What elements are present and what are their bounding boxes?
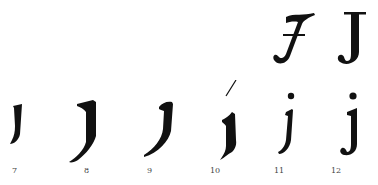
- glyph-7: [8, 104, 24, 146]
- glyph-8: [66, 100, 102, 164]
- glyph-9: [140, 101, 176, 161]
- label-7: 7: [12, 166, 17, 175]
- glyph-capital-j-script: [270, 10, 320, 66]
- glyph-10: [214, 80, 244, 162]
- label-10: 10: [210, 166, 220, 175]
- label-9: 9: [147, 166, 152, 175]
- glyph-capital-j-roman: [335, 12, 367, 66]
- label-11: 11: [274, 166, 284, 175]
- glyph-12: [337, 92, 365, 160]
- label-12: 12: [331, 166, 341, 175]
- glyph-11: [276, 92, 300, 158]
- label-8: 8: [84, 166, 89, 175]
